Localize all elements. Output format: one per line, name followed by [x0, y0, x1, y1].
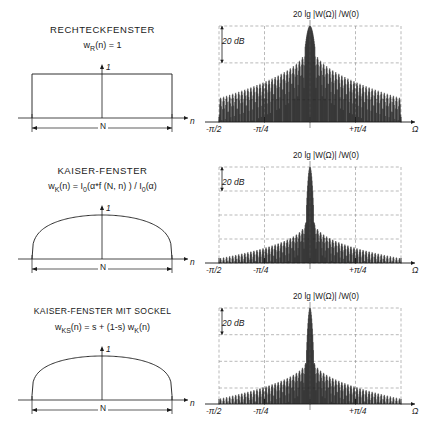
formula-rest3-kaiser: (α) — [146, 181, 157, 191]
formula-rest-sockel: (n) = s + (1-s) w — [71, 322, 135, 332]
spectrum-plot-rechteck — [205, 20, 426, 138]
spectrum-kaiser-sockel: 20 lg |W(Ω)| /W(0) 20 dB -π/2 -π/4 +π/4 … — [205, 282, 426, 423]
window-formula-kaiser: wK(n) = I0(α*f (N, n) ) / I0(α) — [0, 181, 205, 193]
time-y-label-sockel: 1 — [106, 344, 111, 354]
time-y-label-kaiser: 1 — [106, 203, 111, 213]
spectrum-label-sockel: 20 lg |W(Ω)| /W(0) — [293, 292, 359, 301]
time-plot-rectangular: 1 n N — [18, 56, 198, 136]
time-width-label-sockel: N — [98, 403, 108, 413]
spectrum-label-rechteck: 20 lg |W(Ω)| /W(0) — [293, 10, 359, 19]
spectrum-plot-sockel — [205, 302, 426, 420]
window-title-rechteck: Rechteckfenster — [0, 24, 205, 35]
spectrum-rechteckfenster: 20 lg |W(Ω)| /W(0) 20 dB -π/2 -π/4 +π/4 … — [205, 0, 426, 141]
window-title-kaiser: Kaiser-Fenster — [0, 165, 205, 176]
time-width-label-kaiser: N — [98, 262, 108, 272]
formula-rest2-sockel: (n) — [139, 322, 150, 332]
time-y-label-rechteck: 1 — [106, 62, 111, 72]
spectrum-label-kaiser: 20 lg |W(Ω)| /W(0) — [293, 151, 359, 160]
time-width-label-rechteck: N — [98, 121, 108, 131]
time-domain-kaiser-sockel: Kaiser-Fenster mit Sockel wKS(n) = s + (… — [0, 282, 205, 423]
formula-rest-kaiser: (n) = I — [59, 181, 83, 191]
panel-kaiser-fenster-mit-sockel: Kaiser-Fenster mit Sockel wKS(n) = s + (… — [0, 282, 426, 423]
time-plot-kaiser: 1 n N — [18, 197, 198, 277]
spectrum-kaiser: 20 lg |W(Ω)| /W(0) 20 dB -π/2 -π/4 +π/4 … — [205, 141, 426, 282]
time-x-label-sockel: n — [190, 398, 195, 408]
window-function-figure: Rechteckfenster wR(n) = 1 — [0, 0, 426, 424]
window-formula-kaiser-sockel: wKS(n) = s + (1-s) wK(n) — [0, 322, 205, 334]
time-domain-rechteckfenster: Rechteckfenster wR(n) = 1 — [0, 0, 205, 141]
spectrum-plot-kaiser — [205, 161, 426, 279]
panel-rechteckfenster: Rechteckfenster wR(n) = 1 — [0, 0, 426, 141]
time-plot-kaiser-sockel: 1 n N — [18, 338, 198, 418]
formula-rest2-kaiser: (α*f (N, n) ) / I — [87, 181, 142, 191]
window-formula-rechteck: wR(n) = 1 — [0, 40, 205, 52]
time-x-label-kaiser: n — [190, 257, 195, 267]
time-domain-kaiser: Kaiser-Fenster wK(n) = I0(α*f (N, n) ) /… — [0, 141, 205, 282]
time-x-label-rechteck: n — [190, 116, 195, 126]
formula-subscript-sockel: KS — [61, 327, 70, 334]
formula-rest: (n) = 1 — [95, 40, 121, 50]
window-title-kaiser-sockel: Kaiser-Fenster mit Sockel — [0, 306, 205, 316]
panel-kaiser-fenster: Kaiser-Fenster wK(n) = I0(α*f (N, n) ) /… — [0, 141, 426, 282]
